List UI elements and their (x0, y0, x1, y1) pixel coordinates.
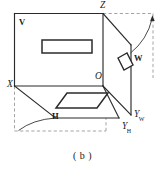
label-y-w-subscript: W (139, 116, 145, 122)
y-h-axis (103, 86, 119, 118)
h-plane-left-edge (15, 86, 56, 118)
w-plane-top-edge (103, 14, 131, 46)
rotation-arc-group (19, 19, 153, 131)
label-y-h-axis: YH (122, 122, 132, 133)
label-z-axis: Z (100, 1, 105, 11)
h-projection-parallelogram (56, 93, 108, 108)
figure-caption: ( b ) (0, 150, 165, 161)
h-projection-shape (56, 93, 108, 108)
label-x-axis: X (7, 80, 13, 90)
label-w-plane: W (134, 54, 143, 63)
h-plane-rotation-arc (19, 118, 56, 131)
label-origin: O (95, 72, 102, 82)
label-h-plane: H (52, 112, 59, 121)
label-y-w-axis: YW (134, 110, 145, 121)
arrowhead-group (150, 15, 155, 21)
v-projection-shape (42, 40, 92, 53)
figure-container: V Z X O W H YW YH ( b ) (0, 0, 165, 171)
dashed-outline-group (15, 14, 154, 132)
w-arc-arrowhead (150, 15, 155, 21)
label-v-plane: V (19, 18, 25, 27)
w-plane-rotation-arc (131, 19, 153, 54)
label-y-h-subscript: H (127, 128, 131, 134)
y-w-axis (103, 86, 131, 115)
v-projection-rectangle (42, 40, 92, 53)
